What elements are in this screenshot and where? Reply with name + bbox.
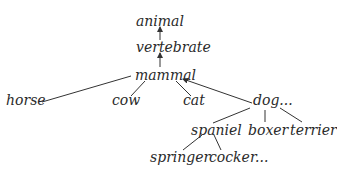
edge-terrier-dog (280, 108, 302, 122)
node-vertebrate: vertebrate (136, 40, 211, 54)
edge-spaniel-dog (213, 108, 250, 123)
node-cow: cow (112, 93, 140, 107)
node-spaniel: spaniel (191, 123, 242, 137)
node-dog: dog... (253, 93, 293, 107)
node-boxer: boxer (248, 123, 288, 137)
node-terrier: terrier (290, 123, 337, 137)
node-animal: animal (136, 14, 184, 28)
taxonomy-diagram: animal vertebrate mammal horse cow cat d… (0, 0, 337, 171)
node-mammal: mammal (135, 68, 196, 82)
node-horse: horse (6, 93, 46, 107)
node-cocker: cocker... (209, 150, 268, 164)
node-cat: cat (183, 93, 205, 107)
node-springer: springer (150, 150, 210, 164)
